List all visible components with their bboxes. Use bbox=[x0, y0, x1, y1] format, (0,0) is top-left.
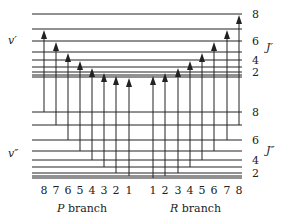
r_branch-line-number: 2 bbox=[162, 184, 169, 197]
r_branch-transition-3 bbox=[175, 68, 181, 173]
p-branch-label: P branch bbox=[56, 202, 107, 215]
p_branch-line-number: 8 bbox=[41, 184, 48, 197]
p_branch-line-number: 5 bbox=[77, 184, 84, 197]
upper-level-tick: 8 bbox=[252, 8, 259, 21]
r_branch-line-number: 7 bbox=[224, 184, 231, 197]
p_branch-line-number: 4 bbox=[89, 184, 96, 197]
r-branch-label: R branch bbox=[169, 202, 221, 215]
r_branch-line-number: 1 bbox=[150, 184, 157, 197]
r-branch-word: branch bbox=[178, 202, 221, 215]
j-tick-labels: 86428642 bbox=[252, 8, 259, 180]
p_branch-line-number: 1 bbox=[126, 184, 133, 197]
p_branch-line-number: 6 bbox=[65, 184, 72, 197]
arrowhead-icon bbox=[41, 30, 47, 39]
lower-level-tick: 4 bbox=[252, 154, 259, 167]
lower-level-tick: 8 bbox=[252, 106, 259, 119]
upper-vibrational-label: v′ bbox=[8, 34, 17, 47]
arrowhead-icon bbox=[77, 61, 83, 70]
p_branch-line-number: 7 bbox=[53, 184, 60, 197]
lower-level-tick: 6 bbox=[252, 134, 259, 147]
p_branch-transition-7 bbox=[53, 42, 59, 125]
r_branch-transition-1 bbox=[150, 76, 156, 178]
r-branch-letter: R bbox=[169, 202, 178, 215]
arrowhead-icon bbox=[187, 61, 193, 70]
p_branch-line-number: 3 bbox=[101, 184, 108, 197]
branch-line-numbers: 8765432112345678 bbox=[41, 184, 243, 197]
r_branch-transition-8 bbox=[236, 15, 242, 125]
arrowhead-icon bbox=[211, 42, 217, 51]
arrowhead-icon bbox=[199, 53, 205, 62]
r_branch-line-number: 6 bbox=[211, 184, 218, 197]
p_branch-transition-6 bbox=[65, 53, 71, 140]
r_branch-line-number: 3 bbox=[175, 184, 182, 197]
p_branch-transition-3 bbox=[101, 73, 107, 167]
lower-j-label: J″ bbox=[264, 144, 275, 157]
arrowhead-icon bbox=[126, 78, 132, 87]
p-branch-word: branch bbox=[64, 202, 107, 215]
r_branch-line-number: 4 bbox=[187, 184, 194, 197]
r_branch-transition-7 bbox=[224, 30, 230, 140]
upper-j-label: J′ bbox=[264, 41, 273, 54]
r_branch-transition-5 bbox=[199, 53, 205, 160]
p_branch-transition-1 bbox=[126, 78, 132, 176]
upper-state-levels bbox=[32, 14, 242, 77]
p_branch-line-number: 2 bbox=[113, 184, 120, 197]
upper-level-tick: 6 bbox=[252, 35, 259, 48]
r_branch-transition-6 bbox=[211, 42, 217, 151]
arrowhead-icon bbox=[224, 30, 230, 39]
lower-state-levels bbox=[32, 112, 242, 178]
upper-level-tick: 2 bbox=[252, 66, 259, 79]
r_branch-line-number: 5 bbox=[199, 184, 206, 197]
transition-arrows bbox=[41, 15, 242, 178]
p_branch-transition-8 bbox=[41, 30, 47, 112]
arrowhead-icon bbox=[65, 53, 71, 62]
lower-vibrational-label: v″ bbox=[8, 147, 19, 160]
p_branch-transition-4 bbox=[89, 68, 95, 160]
arrowhead-icon bbox=[53, 42, 59, 51]
rotational-energy-level-diagram: 86428642 8765432112345678 v′ v″ J′ J″ P … bbox=[0, 0, 290, 218]
lower-level-tick: 2 bbox=[252, 167, 259, 180]
arrowhead-icon bbox=[236, 15, 242, 24]
r_branch-line-number: 8 bbox=[236, 184, 243, 197]
